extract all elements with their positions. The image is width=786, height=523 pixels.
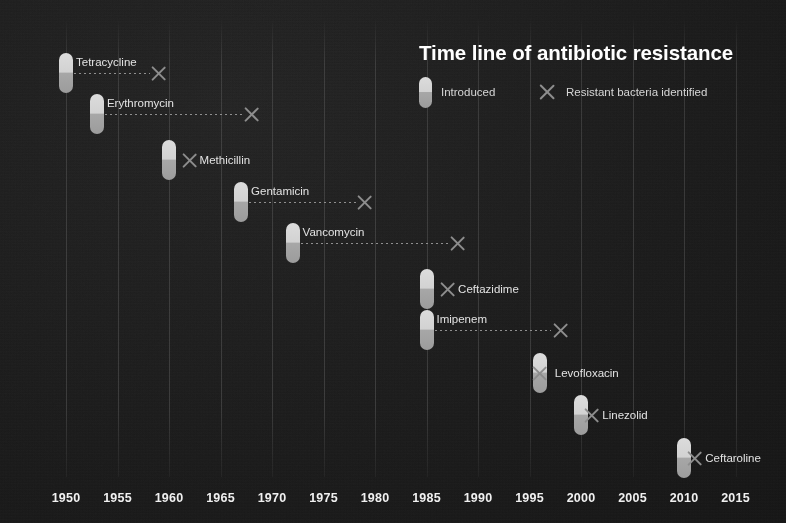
- introduced-pill-ceftazidime[interactable]: [420, 269, 434, 309]
- row-label-ceftazidime: Ceftazidime: [458, 283, 519, 295]
- connector-tetracycline: [74, 73, 150, 74]
- resistance-marker-methicillin[interactable]: [180, 151, 199, 170]
- gridline-1995: [530, 18, 531, 477]
- gridline-1970: [272, 18, 273, 477]
- x-tick-label-2015: 2015: [721, 491, 750, 505]
- x-tick-label-1965: 1965: [206, 491, 235, 505]
- row-label-gentamicin: Gentamicin: [251, 185, 309, 197]
- x-tick-label-1970: 1970: [258, 491, 287, 505]
- row-label-tetracycline: Tetracycline: [76, 56, 137, 68]
- gridline-1965: [221, 18, 222, 477]
- introduced-pill-methicillin[interactable]: [162, 140, 176, 180]
- introduced-pill-imipenem[interactable]: [420, 310, 434, 350]
- x-tick-label-1960: 1960: [155, 491, 184, 505]
- x-tick-label-1990: 1990: [464, 491, 493, 505]
- x-tick-label-1975: 1975: [309, 491, 338, 505]
- row-label-methicillin: Methicillin: [200, 154, 251, 166]
- resistance-marker-erythromycin[interactable]: [242, 105, 261, 124]
- x-tick-label-2005: 2005: [618, 491, 647, 505]
- x-tick-label-2000: 2000: [567, 491, 596, 505]
- resistance-marker-ceftazidime[interactable]: [438, 280, 457, 299]
- legend-label-introduced: Introduced: [441, 86, 495, 98]
- introduced-pill-erythromycin[interactable]: [90, 94, 104, 134]
- connector-imipenem: [435, 330, 552, 331]
- resistance-marker-gentamicin[interactable]: [355, 193, 374, 212]
- gridline-2015: [736, 18, 737, 477]
- gridline-1980: [375, 18, 376, 477]
- connector-erythromycin: [105, 114, 243, 115]
- row-label-vancomycin: Vancomycin: [303, 226, 365, 238]
- legend-item-introduced: Introduced: [419, 76, 495, 108]
- gridline-1955: [118, 18, 119, 477]
- pill-icon: [419, 77, 432, 108]
- introduced-pill-vancomycin[interactable]: [286, 223, 300, 263]
- legend-item-resistant: Resistant bacteria identified: [537, 76, 707, 108]
- row-label-linezolid: Linezolid: [602, 409, 647, 421]
- row-label-levofloxacin: Levofloxacin: [555, 367, 619, 379]
- row-label-erythromycin: Erythromycin: [107, 97, 174, 109]
- x-tick-label-1985: 1985: [412, 491, 441, 505]
- gridline-1960: [169, 18, 170, 477]
- x-tick-label-1955: 1955: [103, 491, 132, 505]
- x-tick-label-1980: 1980: [361, 491, 390, 505]
- x-marker-icon: [537, 82, 557, 102]
- introduced-pill-gentamicin[interactable]: [234, 182, 248, 222]
- legend-label-resistant: Resistant bacteria identified: [566, 86, 707, 98]
- timeline-chart: 1950195519601965197019751980198519901995…: [0, 0, 786, 523]
- resistance-marker-tetracycline[interactable]: [149, 64, 168, 83]
- row-label-imipenem: Imipenem: [437, 313, 488, 325]
- resistance-marker-vancomycin[interactable]: [448, 234, 467, 253]
- x-tick-label-1995: 1995: [515, 491, 544, 505]
- row-label-ceftaroline: Ceftaroline: [705, 452, 761, 464]
- resistance-marker-linezolid[interactable]: [582, 406, 601, 425]
- introduced-pill-tetracycline[interactable]: [59, 53, 73, 93]
- resistance-marker-levofloxacin[interactable]: [530, 364, 549, 383]
- x-tick-label-2010: 2010: [670, 491, 699, 505]
- connector-gentamicin: [249, 202, 356, 203]
- connector-vancomycin: [301, 243, 449, 244]
- resistance-marker-imipenem[interactable]: [551, 321, 570, 340]
- resistance-marker-ceftaroline[interactable]: [685, 449, 704, 468]
- chart-title: Time line of antibiotic resistance: [419, 41, 733, 65]
- gridline-1975: [324, 18, 325, 477]
- x-tick-label-1950: 1950: [52, 491, 81, 505]
